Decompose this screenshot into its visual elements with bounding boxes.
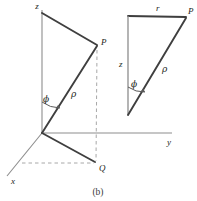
- p-to-q-dashed-line: [96, 50, 97, 161]
- x-axis-label: x: [10, 176, 15, 186]
- phi-angle-label-right: ϕ: [131, 79, 137, 89]
- z-top-to-p-segment: [42, 13, 97, 45]
- rho-segment: [42, 46, 97, 133]
- rho-hypotenuse-label: ρ: [161, 64, 168, 74]
- y-axis-label: y: [166, 137, 171, 147]
- rho-hypotenuse-line: [128, 18, 186, 115]
- right-diagram-group: r z ρ ϕ P: [118, 3, 194, 115]
- figure-caption: (b): [92, 187, 103, 198]
- point-p-label-right: P: [187, 6, 194, 16]
- x-axis-line: [7, 133, 42, 176]
- point-q-label: Q: [99, 163, 106, 173]
- z-axis-label: z: [34, 1, 39, 11]
- phi-angle-label: ϕ: [43, 94, 49, 104]
- figure-container: z y x P Q ϕ ρ r z ρ ϕ P (b): [0, 0, 197, 201]
- left-diagram-group: z y x P Q ϕ ρ: [7, 1, 172, 186]
- r-side-line: [128, 16, 186, 17]
- point-p-label: P: [100, 37, 107, 47]
- rho-length-label: ρ: [70, 89, 77, 99]
- origin-to-q-segment: [42, 133, 95, 162]
- spherical-coordinates-figure: z y x P Q ϕ ρ r z ρ ϕ P (b): [0, 0, 197, 201]
- z-side-label: z: [118, 59, 123, 69]
- r-side-label: r: [156, 3, 160, 13]
